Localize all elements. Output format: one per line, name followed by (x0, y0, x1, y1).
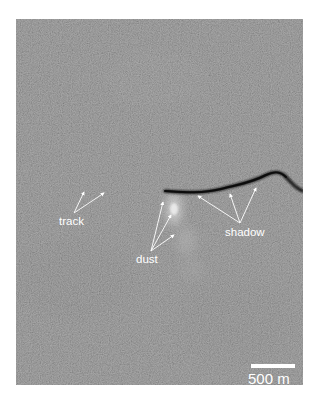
terrain-graphic (16, 19, 303, 385)
scale-bar (251, 364, 295, 368)
shadow-label: shadow (225, 227, 265, 239)
terrain-texture (16, 19, 303, 385)
dust-label: dust (136, 254, 158, 266)
scale-bar-label: 500 m (248, 371, 290, 385)
satellite-image: track dust shadow 500 m (16, 19, 303, 385)
track-label: track (59, 216, 84, 228)
